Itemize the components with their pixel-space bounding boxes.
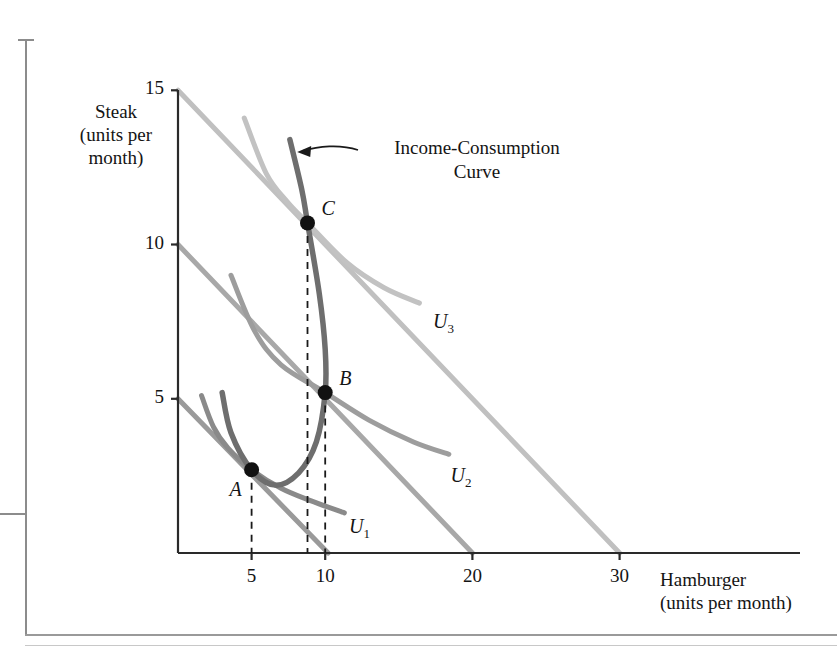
income-consumption-curve-annotation: Income-Consumption Curve (362, 136, 592, 184)
y-tick-label-15: 15 (116, 77, 164, 99)
x-tick-label-5: 5 (227, 565, 277, 587)
annotation-line-2: Curve (454, 161, 500, 182)
x-tick-label-10: 10 (300, 565, 350, 587)
x-tick-label-30: 30 (595, 565, 645, 587)
x-tick-label-20: 20 (447, 565, 497, 587)
equilibrium-point-A (244, 462, 259, 477)
point-label-a: A (230, 478, 242, 501)
equilibrium-point-C (300, 215, 315, 230)
point-label-b: B (339, 367, 351, 390)
annotation-arrowhead (297, 146, 311, 157)
curve-label-subscript: 2 (465, 475, 472, 490)
curve-label-subscript: 3 (447, 321, 454, 336)
figure-page: Steak (units per month) Hamburger (units… (0, 0, 837, 649)
equilibrium-point-B (318, 385, 333, 400)
curve-label-u1: U1 (349, 515, 370, 542)
y-tick-label-10: 10 (116, 232, 164, 254)
annotation-line-1: Income-Consumption (394, 137, 560, 158)
y-tick-label-5: 5 (116, 386, 164, 408)
x-axis-title: Hamburger (units per month) (660, 568, 837, 614)
curve-label-base: U (451, 464, 465, 486)
curve-label-u3: U3 (433, 310, 454, 337)
point-label-c: C (322, 197, 335, 220)
curve-label-subscript: 1 (364, 526, 371, 541)
curve-label-base: U (349, 515, 363, 537)
curve-label-u2: U2 (451, 464, 472, 491)
y-axis-title: Steak (units per month) (52, 100, 180, 169)
annotation-leader-line (303, 146, 358, 151)
curve-label-base: U (433, 310, 447, 332)
